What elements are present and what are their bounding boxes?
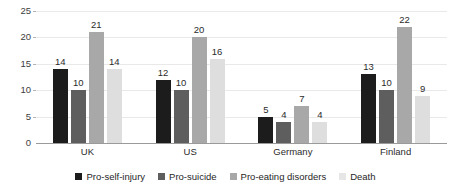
bar-us-pro-eating-disorders[interactable]: 20 <box>192 37 207 143</box>
bar-value-germany-pro-suicide: 4 <box>281 109 286 120</box>
bar-slot-finland-pro-suicide: 10 <box>378 11 396 143</box>
y-axis: 25 20 15 10 5 0 <box>0 0 34 163</box>
axis-baseline <box>36 143 447 144</box>
y-tick-label-0: 0 <box>26 138 31 148</box>
x-axis-categories: UK US Germany Finland <box>36 145 447 161</box>
bar-slot-finland-pro-self-injury: 13 <box>360 11 378 143</box>
bar-value-us-pro-eating-disorders: 20 <box>194 24 205 35</box>
legend-item-pro-suicide[interactable]: Pro-suicide <box>158 171 217 182</box>
plot-area: 14 10 21 <box>36 11 447 143</box>
bar-finland-pro-eating-disorders[interactable]: 22 <box>397 27 412 143</box>
bar-slot-us-pro-suicide: 10 <box>172 11 190 143</box>
legend-swatch-icon-pro-suicide <box>158 173 165 180</box>
legend-item-pro-eating-disorders[interactable]: Pro-eating disorders <box>230 171 327 182</box>
legend-label-pro-suicide: Pro-suicide <box>169 171 217 182</box>
bar-value-uk-pro-eating-disorders: 21 <box>91 19 102 30</box>
bar-uk-pro-suicide[interactable]: 10 <box>71 90 86 143</box>
bar-slot-germany-death: 4 <box>311 11 329 143</box>
bar-slot-finland-death: 9 <box>414 11 432 143</box>
bar-slot-germany-pro-suicide: 4 <box>275 11 293 143</box>
bar-us-pro-self-injury[interactable]: 12 <box>156 80 171 143</box>
bar-groups: 14 10 21 <box>36 11 447 143</box>
bar-group-uk: 14 10 21 <box>36 11 139 143</box>
y-tick-label-20: 20 <box>20 32 31 42</box>
bar-value-germany-pro-eating-disorders: 7 <box>299 93 304 104</box>
bar-value-us-pro-self-injury: 12 <box>158 67 169 78</box>
bar-finland-death[interactable]: 9 <box>415 96 430 144</box>
legend-item-death[interactable]: Death <box>339 171 375 182</box>
bar-slot-finland-pro-eating-disorders: 22 <box>396 11 414 143</box>
legend-swatch-icon-death <box>339 173 346 180</box>
x-label-us: US <box>139 145 242 161</box>
legend-label-death: Death <box>350 171 375 182</box>
bar-slot-uk-pro-eating-disorders: 21 <box>87 11 105 143</box>
legend-swatch-icon-pro-eating-disorders <box>230 173 237 180</box>
bar-slot-uk-pro-suicide: 10 <box>69 11 87 143</box>
bar-us-pro-suicide[interactable]: 10 <box>174 90 189 143</box>
plot-wrapper: 25 20 15 10 5 0 <box>0 0 451 163</box>
legend-label-pro-self-injury: Pro-self-injury <box>86 171 145 182</box>
bar-slot-germany-pro-self-injury: 5 <box>257 11 275 143</box>
bar-germany-pro-eating-disorders[interactable]: 7 <box>294 106 309 143</box>
bar-germany-death[interactable]: 4 <box>312 122 327 143</box>
bar-us-death[interactable]: 16 <box>210 59 225 144</box>
bar-uk-pro-eating-disorders[interactable]: 21 <box>89 32 104 143</box>
bar-chart: 25 20 15 10 5 0 <box>0 0 451 195</box>
bar-value-germany-pro-self-injury: 5 <box>263 104 268 115</box>
bar-slot-us-pro-eating-disorders: 20 <box>190 11 208 143</box>
bar-finland-pro-self-injury[interactable]: 13 <box>361 74 376 143</box>
bar-value-germany-death: 4 <box>317 109 322 120</box>
bar-slot-us-pro-self-injury: 12 <box>154 11 172 143</box>
bar-value-uk-pro-suicide: 10 <box>73 77 84 88</box>
bar-group-us: 12 10 20 <box>139 11 242 143</box>
bar-group-finland: 13 10 22 <box>344 11 447 143</box>
bar-value-us-pro-suicide: 10 <box>176 77 187 88</box>
bar-uk-pro-self-injury[interactable]: 14 <box>53 69 68 143</box>
bar-value-finland-pro-suicide: 10 <box>381 77 392 88</box>
x-label-germany: Germany <box>242 145 345 161</box>
bar-value-finland-pro-self-injury: 13 <box>363 61 374 72</box>
bar-germany-pro-self-injury[interactable]: 5 <box>258 117 273 143</box>
bar-value-uk-death: 14 <box>109 56 120 67</box>
bar-slot-us-death: 16 <box>208 11 226 143</box>
bar-slot-uk-pro-self-injury: 14 <box>51 11 69 143</box>
bar-slot-germany-pro-eating-disorders: 7 <box>293 11 311 143</box>
legend-label-pro-eating-disorders: Pro-eating disorders <box>241 171 327 182</box>
legend-item-pro-self-injury[interactable]: Pro-self-injury <box>75 171 145 182</box>
bar-value-us-death: 16 <box>212 46 223 57</box>
y-tick-label-15: 15 <box>20 59 31 69</box>
y-tick-label-25: 25 <box>20 6 31 16</box>
bar-finland-pro-suicide[interactable]: 10 <box>379 90 394 143</box>
y-tick-label-10: 10 <box>20 85 31 95</box>
bar-value-finland-death: 9 <box>420 83 425 94</box>
x-label-uk: UK <box>36 145 139 161</box>
bar-slot-uk-death: 14 <box>105 11 123 143</box>
bar-group-germany: 5 4 7 <box>242 11 345 143</box>
chart-legend: Pro-self-injury Pro-suicide Pro-eating d… <box>0 168 451 184</box>
bar-germany-pro-suicide[interactable]: 4 <box>276 122 291 143</box>
bar-uk-death[interactable]: 14 <box>107 69 122 143</box>
legend-swatch-icon-pro-self-injury <box>75 173 82 180</box>
bar-value-uk-pro-self-injury: 14 <box>55 56 66 67</box>
y-tick-label-5: 5 <box>26 112 31 122</box>
bar-value-finland-pro-eating-disorders: 22 <box>399 14 410 25</box>
x-label-finland: Finland <box>344 145 447 161</box>
